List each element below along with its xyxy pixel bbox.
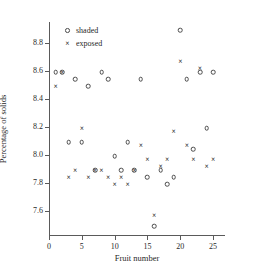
scatter-plot-figure: Percentage of solids Fruit number 8.88.6… xyxy=(0,0,256,275)
y-tick-mark xyxy=(45,211,49,212)
cross-marker-icon: × xyxy=(62,38,73,49)
legend-item-shaded: shaded xyxy=(62,24,102,37)
y-tick-mark xyxy=(45,71,49,72)
x-tick-label: 10 xyxy=(111,243,119,251)
y-tick-mark xyxy=(45,99,49,100)
x-tick-label: 25 xyxy=(209,243,217,251)
x-tick-mark xyxy=(49,236,50,240)
x-axis-title: Fruit number xyxy=(49,253,225,263)
plot-area: 8.88.68.48.28.07.87.6 0510152025 ×××××××… xyxy=(49,22,219,236)
y-tick-mark xyxy=(45,155,49,156)
legend-label-shaded: shaded xyxy=(76,26,98,35)
x-axis-line xyxy=(49,235,225,236)
x-tick-mark xyxy=(82,236,83,240)
x-tick-label: 20 xyxy=(176,243,184,251)
y-axis-line xyxy=(49,22,50,236)
x-tick-mark xyxy=(180,236,181,240)
y-tick-label: 7.8 xyxy=(33,179,43,187)
x-tick-mark xyxy=(115,236,116,240)
y-tick-mark xyxy=(45,43,49,44)
circle-marker-icon xyxy=(62,25,73,36)
y-tick-label: 8.2 xyxy=(33,123,43,131)
x-tick-mark xyxy=(147,236,148,240)
legend-item-exposed: × exposed xyxy=(62,37,102,50)
y-tick-label: 8.4 xyxy=(33,95,43,103)
y-tick-label: 7.6 xyxy=(33,207,43,215)
legend-label-exposed: exposed xyxy=(76,39,102,48)
y-tick-label: 8.6 xyxy=(33,67,43,75)
y-tick-label: 8.8 xyxy=(33,39,43,47)
y-tick-label: 8.0 xyxy=(33,151,43,159)
x-tick-label: 15 xyxy=(143,243,151,251)
legend: shaded × exposed xyxy=(62,24,102,50)
x-tick-label: 0 xyxy=(47,243,51,251)
y-axis-title: Percentage of solids xyxy=(0,95,8,163)
x-tick-mark xyxy=(213,236,214,240)
x-tick-label: 5 xyxy=(80,243,84,251)
y-tick-mark xyxy=(45,183,49,184)
y-tick-mark xyxy=(45,127,49,128)
